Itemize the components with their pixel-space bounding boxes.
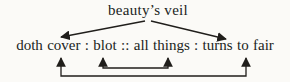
top-term-label: beauty’s veil (3, 2, 290, 18)
analogy-diagram: beauty’s veil doth cover : blot :: all t… (0, 0, 290, 82)
analogy-line-text: doth cover : blot :: all things : turns … (0, 37, 290, 53)
bracket-outer-dothcover-turnstofair-icon (61, 58, 246, 76)
arrow-top-left-icon (61, 21, 145, 37)
bracket-inner-blot-allthings-icon (103, 58, 168, 68)
